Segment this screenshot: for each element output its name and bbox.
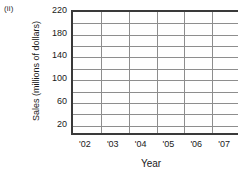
plot-area <box>71 10 238 135</box>
y-axis-tick-label: 220 <box>41 5 67 15</box>
gridline-horizontal <box>73 103 238 104</box>
gridline-vertical <box>212 12 213 133</box>
y-axis-tick-label: 60 <box>41 96 67 106</box>
y-axis-tick-label: 100 <box>41 73 67 83</box>
gridline-horizontal <box>73 23 238 24</box>
y-axis-tick-labels: 2201801401006020 <box>41 10 67 135</box>
gridline-vertical <box>101 12 102 133</box>
x-axis-tick-labels: '02'03'04'05'06'07 <box>71 138 238 150</box>
x-axis-tick-label: '07 <box>210 138 238 150</box>
x-axis-tick-label: '04 <box>127 138 155 150</box>
y-axis-tick-label: 180 <box>41 28 67 38</box>
gridline-vertical <box>184 12 185 133</box>
gridline-horizontal <box>73 57 238 58</box>
gridline-vertical <box>157 12 158 133</box>
gridline-horizontal <box>73 35 238 36</box>
gridline-horizontal <box>73 46 238 47</box>
x-axis-tick-label: '02 <box>71 138 99 150</box>
gridline-horizontal <box>73 80 238 81</box>
gridline-horizontal <box>73 114 238 115</box>
x-axis-tick-label: '05 <box>155 138 183 150</box>
y-axis-tick-label: 20 <box>41 119 67 129</box>
gridline-vertical <box>129 12 130 133</box>
gridline-horizontal <box>73 126 238 127</box>
gridline-horizontal <box>73 69 238 70</box>
gridline-horizontal <box>73 92 238 93</box>
x-axis-tick-label: '06 <box>182 138 210 150</box>
y-axis-tick-label: 140 <box>41 50 67 60</box>
x-axis-tick-label: '03 <box>99 138 127 150</box>
x-axis-title: Year <box>71 158 231 170</box>
figure-label: (ii) <box>4 4 14 14</box>
